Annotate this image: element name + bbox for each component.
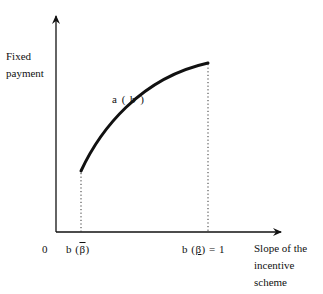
curve-a-of-b	[81, 63, 208, 171]
y-axis-label-line1: Fixed	[6, 48, 54, 65]
diagram: Fixed payment Slope of the incentive sch…	[0, 0, 323, 294]
tick-right-suffix: ) = 1	[202, 243, 225, 255]
y-axis-label: Fixed payment	[6, 48, 54, 82]
tick-label-left: b (β)	[66, 241, 90, 258]
y-axis-label-line2: payment	[6, 65, 54, 82]
x-axis-label-line3: scheme	[254, 274, 323, 291]
origin-label: 0	[42, 241, 48, 258]
tick-left-suffix: )	[86, 243, 90, 255]
x-axis-label-line1: Slope of the	[254, 240, 323, 257]
tick-label-right: b (β) = 1	[182, 241, 225, 258]
x-axis-label-line2: incentive	[254, 257, 323, 274]
x-axis-label: Slope of the incentive scheme	[254, 240, 323, 291]
tick-left-prefix: b (	[66, 243, 79, 255]
tick-right-prefix: b (	[182, 243, 195, 255]
curve-label: a ( b )	[112, 91, 145, 108]
